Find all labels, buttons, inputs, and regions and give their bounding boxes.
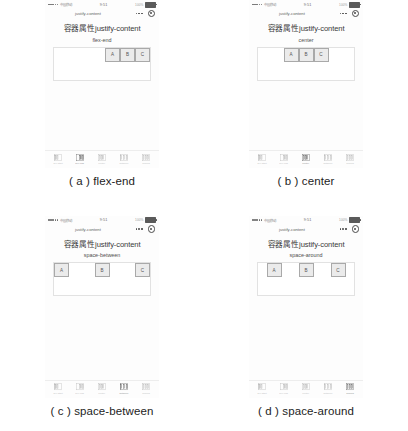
tab-item-center[interactable]: center	[296, 383, 316, 395]
flex-item-a: A	[267, 263, 282, 277]
tab-item-label: between	[119, 162, 128, 165]
page-title: 容器属性justify-content	[268, 22, 345, 33]
page-body: 容器属性justify-contentspace-aroundABC	[249, 234, 363, 380]
figure-panel-a: 中国移动9:51100%justify-content容器属性justify-c…	[0, 0, 204, 216]
nav-bar: justify-content	[45, 9, 159, 18]
nav-title: justify-content	[279, 227, 305, 232]
tab-bar: flex-startflex-endcenterbetweenaround	[249, 380, 363, 398]
center-icon	[98, 154, 106, 162]
nav-title: justify-content	[75, 11, 101, 16]
tab-item-label: around	[142, 392, 149, 395]
flex-start-icon	[54, 154, 62, 162]
flex-end-icon	[280, 154, 288, 162]
tab-item-flex-end[interactable]: flex-end	[70, 154, 90, 166]
battery-percent-label: 100%	[135, 218, 143, 222]
tab-item-between[interactable]: between	[318, 383, 338, 395]
phone-screenshot-a: 中国移动9:51100%justify-content容器属性justify-c…	[45, 0, 159, 168]
tab-item-flex-end[interactable]: flex-end	[274, 383, 294, 395]
tab-item-between[interactable]: between	[114, 383, 134, 395]
tab-item-label: around	[346, 392, 353, 395]
flex-start-icon	[258, 383, 266, 391]
space-between-icon	[120, 154, 128, 162]
tab-item-between[interactable]: between	[318, 154, 338, 166]
signal-strength-icon: 中国移动	[252, 218, 276, 223]
tab-item-label: flex-start	[257, 392, 266, 395]
target-icon[interactable]	[352, 225, 359, 232]
tab-item-flex-end[interactable]: flex-end	[274, 154, 294, 166]
phone-screenshot-b: 中国移动9:51100%justify-content容器属性justify-c…	[249, 0, 363, 168]
tab-bar: flex-startflex-endcenterbetweenaround	[45, 380, 159, 398]
tab-item-flex-start[interactable]: flex-start	[252, 383, 272, 395]
flex-start-icon	[54, 383, 62, 391]
tab-item-around[interactable]: around	[136, 383, 156, 395]
status-time: 9:51	[72, 3, 135, 7]
tab-item-label: between	[323, 162, 332, 165]
signal-strength-icon: 中国移动	[48, 2, 72, 7]
page-title: 容器属性justify-content	[268, 238, 345, 249]
flex-container: ABC	[257, 47, 355, 81]
space-around-icon	[142, 383, 150, 391]
battery-percent-label: 100%	[339, 218, 347, 222]
target-icon[interactable]	[352, 10, 359, 17]
carrier-label: 中国移动	[60, 2, 72, 7]
phone-screenshot-d: 中国移动9:51100%justify-content容器属性justify-c…	[249, 216, 363, 398]
tab-item-label: center	[303, 392, 310, 395]
flex-item-a: A	[54, 263, 69, 277]
tab-item-flex-start[interactable]: flex-start	[252, 154, 272, 166]
battery-percent-label: 100%	[339, 3, 347, 7]
tab-item-label: flex-end	[76, 162, 84, 165]
space-between-icon	[120, 383, 128, 391]
tab-item-center[interactable]: center	[92, 383, 112, 395]
status-bar: 中国移动9:51100%	[249, 0, 363, 9]
ellipsis-icon[interactable]	[136, 228, 143, 230]
page-subtitle: center	[299, 37, 314, 43]
tab-item-around[interactable]: around	[340, 383, 360, 395]
ellipsis-icon[interactable]	[340, 228, 347, 230]
battery-icon	[145, 217, 156, 223]
page-subtitle: flex-end	[92, 37, 111, 43]
tab-item-between[interactable]: between	[114, 154, 134, 166]
space-around-icon	[346, 154, 354, 162]
page-subtitle: space-between	[84, 252, 121, 258]
flex-item-c: C	[331, 263, 346, 277]
flex-end-icon	[76, 154, 84, 162]
panel-caption-b: ( b ) center	[278, 175, 335, 187]
tab-item-label: between	[119, 392, 128, 395]
tab-item-label: center	[99, 392, 106, 395]
tab-bar: flex-startflex-endcenterbetweenaround	[249, 150, 363, 168]
tab-item-label: center	[303, 162, 310, 165]
tab-item-flex-end[interactable]: flex-end	[70, 383, 90, 395]
battery-icon	[349, 217, 360, 223]
tab-item-center[interactable]: center	[296, 154, 316, 166]
page-title: 容器属性justify-content	[64, 22, 141, 33]
nav-bar: justify-content	[249, 225, 363, 234]
panel-caption-c: ( c ) space-between	[51, 405, 154, 417]
tab-item-flex-start[interactable]: flex-start	[48, 383, 68, 395]
tab-item-flex-start[interactable]: flex-start	[48, 154, 68, 166]
battery-icon	[349, 2, 360, 8]
target-icon[interactable]	[148, 225, 155, 232]
ellipsis-icon[interactable]	[136, 13, 143, 15]
tab-item-center[interactable]: center	[92, 154, 112, 166]
nav-bar: justify-content	[45, 225, 159, 234]
tab-item-label: flex-start	[53, 392, 62, 395]
target-icon[interactable]	[148, 10, 155, 17]
flex-end-icon	[280, 383, 288, 391]
tab-item-around[interactable]: around	[136, 154, 156, 166]
flex-item-b: B	[120, 48, 135, 62]
nav-bar: justify-content	[249, 9, 363, 18]
page-body: 容器属性justify-contentspace-betweenABC	[45, 234, 159, 380]
tab-item-around[interactable]: around	[340, 154, 360, 166]
figure-panel-d: 中国移动9:51100%justify-content容器属性justify-c…	[204, 216, 408, 431]
page-body: 容器属性justify-contentcenterABC	[249, 18, 363, 150]
flex-end-icon	[76, 383, 84, 391]
tab-item-label: between	[323, 392, 332, 395]
space-around-icon	[142, 154, 150, 162]
nav-title: justify-content	[75, 227, 101, 232]
status-bar: 中国移动9:51100%	[45, 216, 159, 225]
ellipsis-icon[interactable]	[340, 13, 347, 15]
signal-strength-icon: 中国移动	[252, 2, 276, 7]
figure-panel-c: 中国移动9:51100%justify-content容器属性justify-c…	[0, 216, 204, 431]
status-bar: 中国移动9:51100%	[249, 216, 363, 225]
status-time: 9:51	[72, 218, 135, 222]
